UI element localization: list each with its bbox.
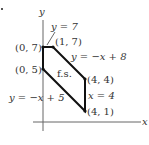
- feasible-region-diagram: y x (0, 7) (1, 7) (4, 4) (4, 1) (0, 5) y…: [0, 0, 149, 145]
- vertex-label-0-5: (0, 5): [15, 64, 42, 75]
- vertex-label-1-7: (1, 7): [55, 36, 82, 47]
- vertex-label-4-1: (4, 1): [87, 106, 114, 117]
- line-label-y-neg-x-plus-8: y = −x + 8: [70, 51, 127, 62]
- feasible-set-label: f.s.: [57, 68, 72, 79]
- vertex-label-0-7: (0, 7): [15, 42, 42, 53]
- line-label-y-neg-x-plus-5: y = −x + 5: [8, 92, 65, 103]
- vertex-label-4-4: (4, 4): [87, 74, 114, 85]
- y-axis-label: y: [38, 6, 45, 17]
- corner-mark: [1, 8, 3, 10]
- line-label-y7: y = 7: [50, 21, 78, 32]
- line-label-x4: x = 4: [88, 90, 115, 101]
- y7-pointer: [47, 32, 55, 45]
- x-axis-label: x: [142, 116, 148, 127]
